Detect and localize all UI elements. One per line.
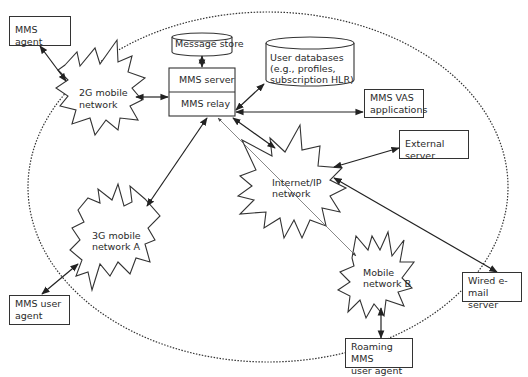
mms-vas-label-1: MMS VAS — [370, 92, 418, 104]
network-2g-label-2: network — [79, 99, 118, 111]
external-server-label: External server — [405, 138, 444, 161]
network-mobile-b-label-2: network B — [363, 278, 411, 290]
edge-relay-3g — [147, 118, 207, 206]
edge-relay-userdb — [236, 84, 264, 110]
edge-external-internet — [334, 148, 399, 167]
mms-server-label: MMS server — [179, 74, 235, 86]
edge-agent-2g — [40, 46, 66, 81]
roaming-agent-label-1: Roaming MMS — [351, 341, 407, 365]
mms-agent-label: MMS agent — [15, 24, 42, 47]
roaming-agent-label-2: user agent — [351, 365, 407, 377]
network-2g-label-1: 2G mobile — [79, 87, 128, 99]
network-3g-label-2: network A — [92, 241, 140, 253]
roaming-agent-box: Roaming MMS user agent — [345, 338, 413, 368]
mms-user-agent-label-1: MMS user — [15, 298, 64, 310]
message-store-label: Message store — [175, 38, 244, 50]
external-server-box: External server — [399, 130, 469, 159]
wired-email-box: Wired e-mail server — [462, 272, 522, 302]
user-databases-label-3: subscription HLR) — [270, 74, 354, 86]
edge-3g-useragent — [42, 264, 78, 294]
mms-user-agent-label-2: agent — [15, 310, 64, 322]
mms-vas-box: MMS VAS applications — [364, 89, 424, 118]
mms-vas-label-2: applications — [370, 104, 418, 116]
mms-agent-box: MMS agent — [9, 16, 71, 46]
edge-relay-internet — [233, 118, 275, 148]
network-internet-label-2: network — [272, 188, 311, 200]
wired-email-label-1: Wired e-mail — [468, 275, 516, 299]
mms-user-agent-box: MMS user agent — [9, 295, 70, 325]
wired-email-label-2: server — [468, 299, 516, 311]
mms-relay-label: MMS relay — [181, 98, 230, 110]
